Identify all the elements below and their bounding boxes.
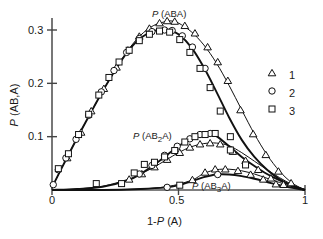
data-point-square (93, 181, 99, 187)
data-point-square (167, 29, 173, 35)
legend-marker-square (269, 106, 275, 112)
y-axis-title: P (AB,A) (8, 84, 20, 127)
data-point-triangle (237, 106, 245, 112)
data-point-triangle (259, 176, 267, 182)
chart-figure: 0.3 0.2 0.1 0 0.5 1 1-P (A) P (AB,A) P (… (0, 0, 323, 239)
curve-label-ab3a: P (AB3A) (192, 180, 231, 194)
chart-curves (52, 21, 305, 190)
data-point-square (151, 159, 157, 165)
data-point-square (119, 181, 125, 187)
data-point-square (126, 47, 132, 53)
data-point-square (243, 162, 249, 168)
data-point-square (172, 148, 178, 154)
data-point-circle (215, 171, 221, 177)
legend-marker-circle (269, 88, 275, 94)
data-point-square (187, 49, 193, 55)
data-point-square (55, 166, 61, 172)
curve-label-ab2a-pre: (AB (139, 130, 157, 141)
data-point-square (146, 31, 152, 37)
legend-label-3: 3 (289, 105, 295, 117)
y-axis-title-suffix: (AB,A) (8, 84, 20, 119)
data-point-square (177, 182, 183, 188)
data-point-square (217, 108, 223, 114)
curve-label-ab2a-post: A) (162, 130, 172, 141)
x-axis-title-prefix: 1- (147, 215, 157, 227)
data-point-square (157, 28, 163, 34)
data-point-square (177, 37, 183, 43)
data-point-triangle (262, 151, 270, 157)
data-point-square (182, 139, 188, 145)
data-point-square (192, 134, 198, 140)
curve-label-aba-text: (ABA) (158, 8, 186, 19)
data-point-square (207, 85, 213, 91)
data-point-circle (50, 181, 56, 187)
curve-label-ab3a-post: A) (221, 180, 231, 191)
data-point-square (106, 74, 112, 80)
data-point-square (212, 130, 218, 136)
y-axis-title-symbol: P (8, 119, 20, 126)
y-tick-label-0.3: 0.3 (28, 24, 43, 36)
data-point-square (131, 170, 137, 176)
legend-label-1: 1 (289, 69, 295, 81)
legend-marker-triangle (268, 69, 276, 75)
curve-p-aba- (52, 21, 305, 190)
curve-label-ab3a-pre: (AB (198, 180, 216, 191)
chart-data-markers (50, 17, 295, 190)
legend-markers (268, 69, 276, 112)
curve-label-aba: P (ABA) (152, 8, 186, 19)
data-point-triangle (275, 168, 283, 174)
data-point-circle (111, 67, 117, 73)
y-tick-label-0.2: 0.2 (28, 77, 43, 89)
data-point-square (86, 111, 92, 117)
y-tick-label-0.1: 0.1 (28, 130, 43, 142)
x-axis-title-suffix: (A) (164, 215, 182, 227)
y-axis-title-wrapper: P (AB,A) (4, 70, 22, 140)
x-axis-title: 1-P (A) (147, 215, 182, 227)
data-point-square (136, 38, 142, 44)
data-point-square (96, 92, 102, 98)
data-point-square (227, 134, 233, 140)
curve-label-ab2a: P (AB2A) (133, 130, 172, 144)
data-point-triangle (249, 130, 257, 136)
legend-label-2: 2 (289, 87, 295, 99)
data-point-square (76, 132, 82, 138)
x-tick-label-1: 1 (302, 194, 308, 206)
data-point-square (197, 65, 203, 71)
data-point-square (65, 151, 71, 157)
data-point-square (202, 132, 208, 138)
data-point-square (162, 154, 168, 160)
data-point-square (116, 59, 122, 65)
data-point-circle (164, 184, 170, 190)
x-tick-label-0: 0 (49, 194, 55, 206)
x-tick-label-0.5: 0.5 (169, 194, 184, 206)
data-point-square (227, 147, 233, 153)
data-point-square (141, 161, 147, 167)
